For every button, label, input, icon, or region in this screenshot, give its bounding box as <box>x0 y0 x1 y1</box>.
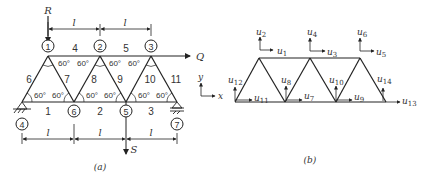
svg-text:60°: 60° <box>52 91 64 100</box>
dof-arrows <box>201 37 400 102</box>
node-label-1: 1 <box>45 42 50 52</box>
svg-text:60°: 60° <box>104 91 116 100</box>
span-label: l <box>98 127 101 138</box>
member-label-5: 5 <box>123 43 129 54</box>
member-label-4: 4 <box>72 43 78 54</box>
svg-text:60°: 60° <box>34 91 46 100</box>
member-label-10: 10 <box>144 74 156 85</box>
truss-figure: 1 2 3 4 5 6 7 1 2 3 4 5 6 7 8 9 10 11 60… <box>0 0 426 175</box>
dof-u4: u4 <box>307 27 318 39</box>
axis-y-label: y <box>197 72 204 82</box>
panel-a-symbols: R Q S l l l l l (a) <box>43 5 204 172</box>
dof-u12: u12 <box>228 75 243 87</box>
dof-u14: u14 <box>377 74 392 86</box>
dimension-top <box>48 22 151 36</box>
member-label-6: 6 <box>26 74 32 85</box>
span-label: l <box>149 127 152 138</box>
load-s-label: S <box>131 144 138 155</box>
member-label-2: 2 <box>97 106 103 117</box>
dof-u13: u13 <box>402 96 417 108</box>
svg-text:60°: 60° <box>77 59 89 68</box>
member-label-8: 8 <box>91 74 97 85</box>
dof-u3: u3 <box>327 47 337 59</box>
dof-u2: u2 <box>256 27 266 39</box>
svg-text:60°: 60° <box>128 59 140 68</box>
member-label-3: 3 <box>148 106 154 117</box>
load-q-label: Q <box>196 51 204 62</box>
node-label-3: 3 <box>148 42 153 52</box>
member-label-9: 9 <box>117 74 123 85</box>
dof-u7: u7 <box>304 91 314 103</box>
svg-text:60°: 60° <box>109 59 121 68</box>
node-label-4: 4 <box>19 120 24 130</box>
span-label: l <box>72 17 75 28</box>
span-label: l <box>46 127 49 138</box>
svg-text:60°: 60° <box>86 91 98 100</box>
svg-text:60°: 60° <box>156 91 168 100</box>
dof-u11: u11 <box>254 93 269 105</box>
roller-support <box>170 102 184 114</box>
dof-u1: u1 <box>277 46 287 58</box>
dof-u5: u5 <box>376 47 386 59</box>
node-label-2: 2 <box>97 42 102 52</box>
node-label-6: 6 <box>71 107 76 117</box>
dof-u6: u6 <box>357 27 368 39</box>
dof-u10: u10 <box>329 75 344 87</box>
node-label-5: 5 <box>123 107 128 117</box>
axis-x-label: x <box>218 91 223 101</box>
node-label-7: 7 <box>174 120 179 130</box>
panel-a-labels: 1 2 3 4 5 6 7 1 2 3 4 5 6 7 8 9 10 11 60… <box>19 42 181 130</box>
member-label-1: 1 <box>45 106 51 117</box>
panel-b <box>201 37 400 102</box>
dof-u8: u8 <box>281 75 291 87</box>
caption-a: (a) <box>94 162 107 172</box>
svg-text:60°: 60° <box>58 59 70 68</box>
load-r-label: R <box>43 5 52 16</box>
member-label-11: 11 <box>171 74 182 85</box>
span-label: l <box>123 17 126 28</box>
panel-b-labels: y x u2 u1 u4 u3 u6 u5 u12 u11 u8 u7 u10 … <box>197 27 417 165</box>
caption-b: (b) <box>304 155 317 165</box>
pin-support <box>13 102 31 113</box>
member-label-7: 7 <box>64 74 70 85</box>
svg-text:60°: 60° <box>138 91 150 100</box>
